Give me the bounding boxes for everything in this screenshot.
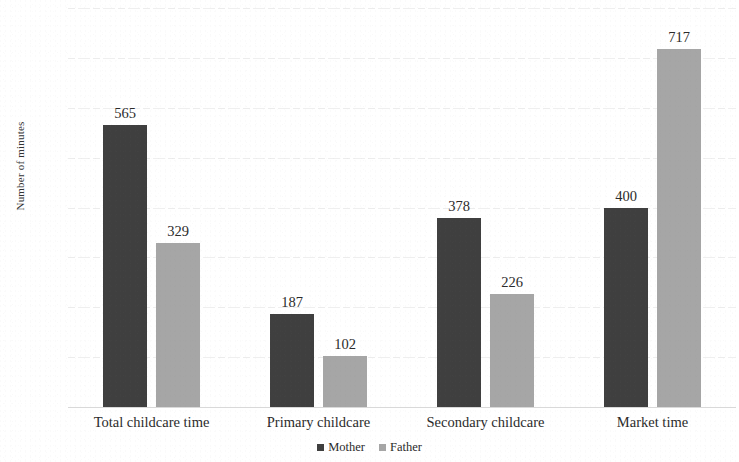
x-axis-label-2: Secondary childcare xyxy=(427,414,545,431)
bar-value-label-mother-3: 400 xyxy=(596,188,656,205)
bar-value-label-father-3: 717 xyxy=(649,29,709,46)
gridline-700 xyxy=(68,58,736,59)
x-axis-label-3: Market time xyxy=(617,414,688,431)
bar-value-label-father-2: 226 xyxy=(482,274,542,291)
bar-father-2[interactable] xyxy=(490,294,534,407)
legend-item-mother[interactable]: Mother xyxy=(317,441,365,454)
bar-value-label-mother-0: 565 xyxy=(95,105,155,122)
bar-father-1[interactable] xyxy=(323,356,367,407)
gridline-0 xyxy=(68,407,736,408)
bar-father-3[interactable] xyxy=(657,49,701,407)
legend-swatch-mother-icon xyxy=(317,444,324,451)
bar-value-label-mother-2: 378 xyxy=(429,198,489,215)
x-axis-label-0: Total childcare time xyxy=(94,414,210,431)
gridline-800 xyxy=(68,8,736,9)
gridline-500 xyxy=(68,158,736,159)
bar-value-label-mother-1: 187 xyxy=(262,294,322,311)
bar-chart: Number of minutes 0100200300400500600700… xyxy=(0,0,739,462)
bar-mother-2[interactable] xyxy=(437,218,481,407)
bar-value-label-father-1: 102 xyxy=(315,336,375,353)
y-axis-title: Number of minutes xyxy=(14,76,26,256)
x-axis-label-1: Primary childcare xyxy=(267,414,370,431)
chart-legend: MotherFather xyxy=(0,441,739,454)
bar-mother-3[interactable] xyxy=(604,208,648,408)
legend-label-mother: Mother xyxy=(328,441,365,454)
bar-mother-1[interactable] xyxy=(270,314,314,407)
bar-value-label-father-0: 329 xyxy=(148,223,208,240)
plot-area: 0100200300400500600700800 56532918710237… xyxy=(68,8,736,407)
gridline-600 xyxy=(68,108,736,109)
bar-mother-0[interactable] xyxy=(103,125,147,407)
bar-father-0[interactable] xyxy=(156,243,200,407)
legend-item-father[interactable]: Father xyxy=(379,441,422,454)
legend-label-father: Father xyxy=(390,441,422,454)
legend-swatch-father-icon xyxy=(379,444,386,451)
